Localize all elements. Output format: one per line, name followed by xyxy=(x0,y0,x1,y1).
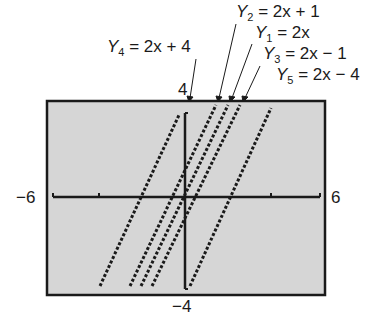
calculator-graph xyxy=(0,0,378,314)
annotation-arrows xyxy=(187,24,260,102)
